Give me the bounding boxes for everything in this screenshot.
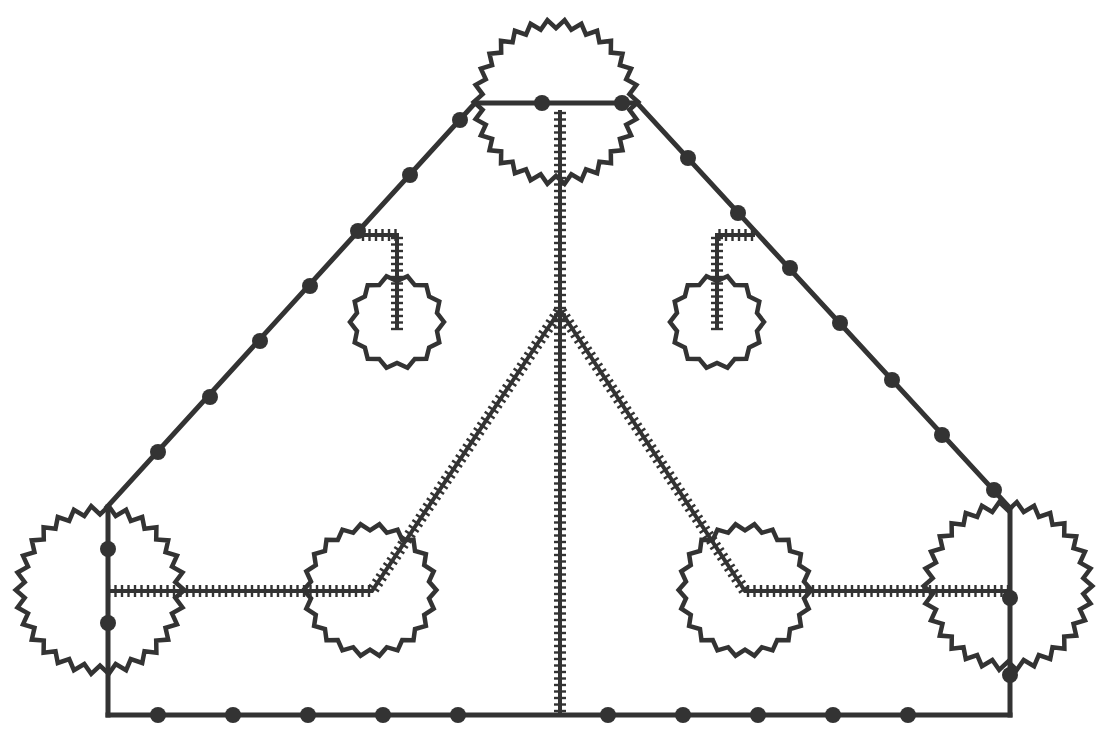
schematic-diagram (0, 0, 1115, 753)
ladder-connectors (108, 110, 1010, 715)
junction-node-icon (934, 427, 950, 443)
junction-node-icon (1002, 667, 1018, 683)
junction-node-icon (782, 260, 798, 276)
junction-node-icon (534, 95, 550, 111)
junction-node-icon (100, 541, 116, 557)
junction-node-icon (150, 707, 166, 723)
junction-node-icon (675, 707, 691, 723)
center-spine-ladder (554, 110, 566, 715)
junction-node-icon (225, 707, 241, 723)
junction-node-icon (252, 333, 268, 349)
junction-node-icon (350, 223, 366, 239)
junction-node-icon (150, 444, 166, 460)
junction-node-icon (375, 707, 391, 723)
junction-node-icon (300, 707, 316, 723)
junction-node-icon (202, 389, 218, 405)
junction-node-icon (402, 167, 418, 183)
junction-node-icon (884, 372, 900, 388)
junction-node-icon (614, 95, 630, 111)
junction-node-icon (1002, 590, 1018, 606)
junction-node-icon (730, 205, 746, 221)
junction-node-icon (302, 278, 318, 294)
junction-node-icon (600, 707, 616, 723)
junction-node-icon (450, 707, 466, 723)
junction-node-icon (832, 315, 848, 331)
junction-node-icon (100, 615, 116, 631)
junction-node-icon (452, 112, 468, 128)
junction-node-icon (900, 707, 916, 723)
junction-node-icon (750, 707, 766, 723)
junction-node-icon (825, 707, 841, 723)
junction-node-icon (986, 482, 1002, 498)
right-branch-ladder (557, 309, 1010, 597)
junction-node-icon (680, 150, 696, 166)
